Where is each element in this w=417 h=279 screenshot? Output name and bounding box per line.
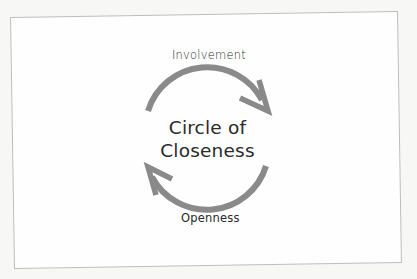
openness-label: Openness bbox=[181, 211, 240, 225]
involvement-label: Involvement bbox=[172, 48, 246, 62]
title-line-1: Circle of bbox=[150, 116, 265, 139]
diagram-title: Circle of Closeness bbox=[150, 116, 265, 162]
bottom-arc-arrow-icon bbox=[148, 166, 266, 210]
title-line-2: Closeness bbox=[150, 139, 265, 162]
top-arc-arrow-icon bbox=[148, 67, 268, 111]
